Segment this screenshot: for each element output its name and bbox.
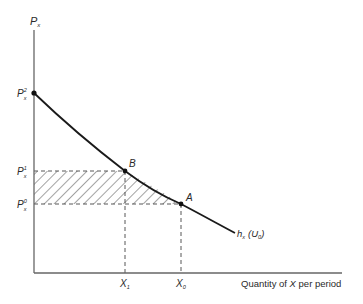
- point-p2: [31, 90, 36, 95]
- y-axis-label: Px: [30, 15, 41, 28]
- point-b: [123, 169, 128, 174]
- quantity-label-x0: X0: [175, 278, 187, 290]
- quantity-label-x1: X1: [119, 278, 130, 290]
- hatched-area: [34, 171, 181, 204]
- point-label-a: A: [185, 192, 193, 203]
- curve-label: hx(U0): [237, 228, 264, 240]
- price-label-p1: P1x: [17, 165, 27, 179]
- x-axis-label: Quantity of X per period: [241, 278, 341, 289]
- demand-diagram: Px P2x P1x P0x B A X1 X0 Quantity of X p…: [0, 0, 363, 304]
- price-label-p0: P0x: [17, 198, 28, 212]
- price-label-p2: P2x: [17, 87, 27, 101]
- point-a: [179, 202, 184, 207]
- point-label-b: B: [129, 158, 136, 169]
